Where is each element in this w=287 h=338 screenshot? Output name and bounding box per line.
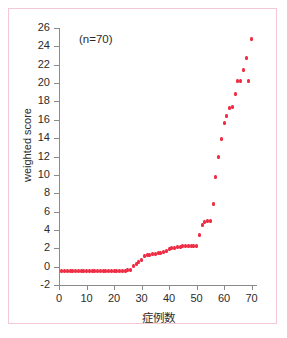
x-tick-label: 10 (72, 293, 102, 304)
data-point (220, 137, 223, 141)
data-point (242, 68, 245, 72)
x-tick-label: 60 (209, 293, 239, 304)
data-point (239, 79, 242, 83)
x-tick-mark (114, 285, 115, 290)
y-tick-mark (54, 28, 59, 29)
y-tick-mark (54, 230, 59, 231)
x-tick-label: 30 (127, 293, 157, 304)
y-tick-label: 2 (10, 242, 50, 253)
y-tick-label: -2 (10, 279, 50, 290)
x-axis-line (59, 285, 257, 286)
y-tick-mark (54, 212, 59, 213)
x-tick-label: 0 (44, 293, 74, 304)
data-point (217, 155, 220, 159)
y-tick-mark (54, 248, 59, 249)
x-tick-label: 70 (237, 293, 267, 304)
data-point (129, 268, 132, 272)
y-tick-mark (54, 157, 59, 158)
data-point (234, 92, 237, 96)
x-tick-label: 40 (154, 293, 184, 304)
data-point (209, 219, 212, 223)
x-tick-label: 50 (182, 293, 212, 304)
figure-frame: -202468101214161820222426 01020304050607… (8, 8, 277, 324)
y-tick-mark (54, 193, 59, 194)
sample-size-annotation: (n=70) (79, 33, 113, 45)
x-tick-mark (252, 285, 253, 290)
data-point (247, 79, 250, 83)
y-tick-label: 24 (10, 40, 50, 51)
data-point (201, 223, 204, 227)
data-point (198, 233, 201, 237)
x-axis-title: 症例数 (59, 309, 257, 325)
x-tick-label: 20 (99, 293, 129, 304)
data-point (212, 202, 215, 206)
y-tick-mark (54, 120, 59, 121)
y-tick-label: 0 (10, 261, 50, 272)
y-tick-mark (54, 65, 59, 66)
data-point (223, 121, 226, 125)
y-tick-mark (54, 267, 59, 268)
x-tick-mark (142, 285, 143, 290)
x-tick-mark (169, 285, 170, 290)
y-tick-mark (54, 138, 59, 139)
y-tick-mark (54, 101, 59, 102)
data-point (250, 37, 253, 41)
y-tick-mark (54, 46, 59, 47)
y-tick-label: 26 (10, 22, 50, 33)
y-tick-mark (54, 175, 59, 176)
x-tick-mark (87, 285, 88, 290)
plot-area: -202468101214161820222426 01020304050607… (9, 9, 278, 325)
y-axis-title: weighted score (21, 65, 33, 225)
y-tick-label: 4 (10, 224, 50, 235)
data-point (245, 56, 248, 60)
data-point (140, 258, 143, 262)
x-tick-mark (224, 285, 225, 290)
x-tick-mark (59, 285, 60, 290)
data-point (225, 114, 228, 118)
data-point (231, 105, 234, 109)
y-axis-line (59, 28, 60, 285)
x-tick-mark (197, 285, 198, 290)
data-point (214, 175, 217, 179)
data-point (195, 244, 198, 248)
y-tick-mark (54, 83, 59, 84)
